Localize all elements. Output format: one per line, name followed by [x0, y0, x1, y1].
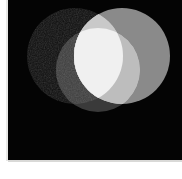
image-panel [8, 0, 182, 161]
panel-bottom-seam [8, 160, 182, 162]
venn-diagram [8, 0, 182, 161]
figure-stage [0, 0, 182, 179]
